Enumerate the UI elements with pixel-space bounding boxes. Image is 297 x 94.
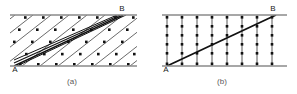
two-panel-lattice-diagram: A B (a) [0,0,297,94]
panel-b-start-label: A [163,65,169,74]
panel-a-end-label: B [119,4,124,13]
panel-a-start-label: A [12,65,18,74]
active-slip-band-a [14,15,126,66]
panel-b: A B (b) [162,4,287,86]
dislocation-line-b [167,15,276,66]
figure-container: A B (a) [0,0,297,94]
panel-b-caption: (b) [217,77,227,86]
panel-a-caption: (a) [67,77,77,86]
panel-b-end-label: B [270,4,275,13]
